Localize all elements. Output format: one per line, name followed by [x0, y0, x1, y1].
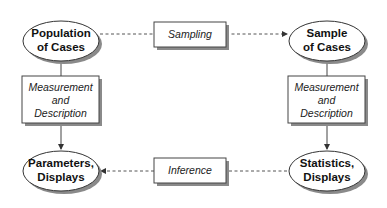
node-statistics: Statistics, Displays	[289, 151, 368, 194]
process-measurement-left-line2: and	[52, 94, 71, 106]
node-parameters-line1: Parameters,	[28, 157, 94, 169]
node-sample: Sample of Cases	[289, 21, 368, 64]
process-measurement-right-line1: Measurement	[294, 81, 359, 93]
process-measurement-left-line1: Measurement	[28, 81, 93, 93]
process-sampling-label: Sampling	[168, 28, 212, 40]
node-population: Population of Cases	[23, 21, 102, 64]
node-parameters: Parameters, Displays	[23, 151, 102, 194]
process-measurement-right-line2: and	[318, 94, 337, 106]
process-measurement-right-line3: Description	[300, 107, 353, 119]
process-measurement-right: Measurement and Description	[288, 76, 368, 126]
process-measurement-left-line3: Description	[34, 107, 87, 119]
sampling-inference-diagram: Population of Cases Sample of Cases Para…	[0, 0, 387, 208]
process-inference: Inference	[154, 158, 229, 186]
process-inference-label: Inference	[168, 164, 212, 176]
node-sample-line2: of Cases	[303, 41, 351, 53]
process-measurement-left: Measurement and Description	[22, 76, 102, 126]
node-statistics-line1: Statistics,	[300, 157, 354, 169]
node-parameters-line2: Displays	[37, 171, 84, 183]
process-sampling: Sampling	[154, 22, 229, 50]
node-population-line1: Population	[31, 27, 90, 39]
node-sample-line1: Sample	[307, 27, 348, 39]
node-population-line2: of Cases	[37, 41, 85, 53]
node-statistics-line2: Displays	[303, 171, 350, 183]
